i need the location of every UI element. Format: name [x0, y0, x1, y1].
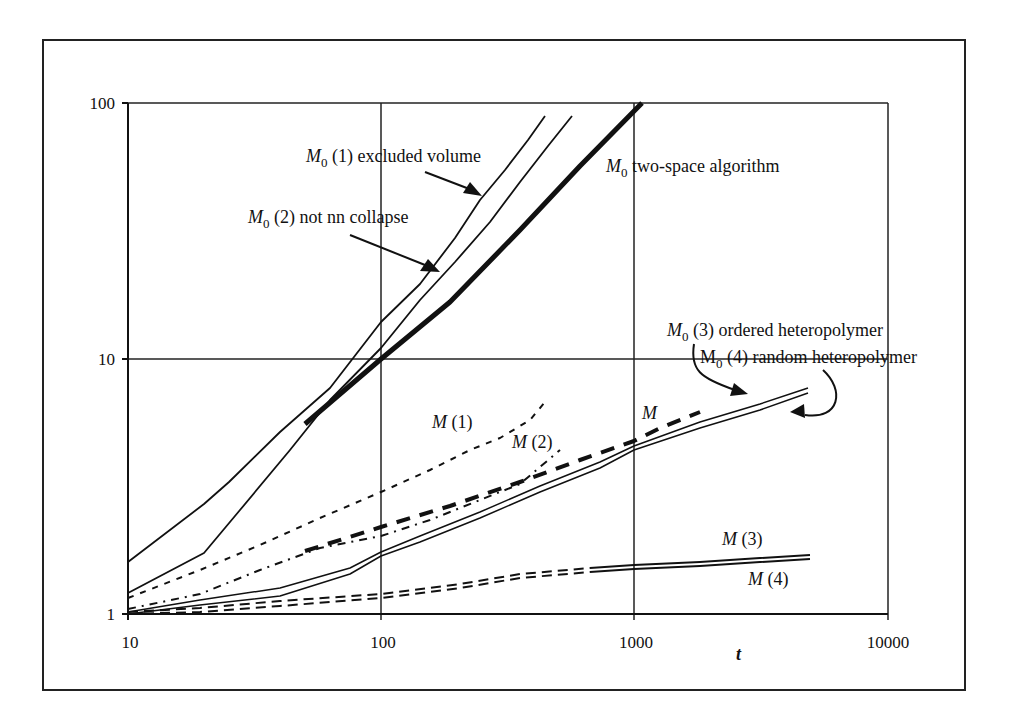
x-tick-10000: 10000 [867, 633, 910, 652]
arrowheads [420, 182, 805, 418]
series-m0-1-excluded-volume [128, 116, 545, 562]
annotation-m-4: M (4) [747, 569, 789, 590]
annotation-m-2: M (2) [511, 432, 553, 453]
y-tick-100: 100 [90, 94, 116, 113]
annotation-arrows [350, 172, 836, 416]
annotation-m0-4: M0 (4) random heteropolymer [700, 347, 917, 371]
series-m-2 [128, 450, 560, 609]
x-tick-100: 100 [370, 633, 396, 652]
y-tick-1: 1 [107, 605, 116, 624]
chart: 1 10 100 10 100 1000 10000 t [0, 0, 1009, 725]
x-tick-10: 10 [122, 633, 139, 652]
series-m0-2-not-nn-collapse [128, 116, 572, 593]
x-tick-labels: 10 100 1000 10000 [122, 633, 910, 652]
annotation-m: M [641, 403, 658, 423]
annotation-m-1: M (1) [431, 412, 473, 433]
y-tick-10: 10 [98, 350, 115, 369]
x-tick-1000: 1000 [619, 633, 653, 652]
annotation-m0-2: M0 (2) not nn collapse [247, 207, 408, 231]
series-m [305, 412, 700, 551]
series-m-1 [128, 402, 545, 598]
annotation-m0-1: M0 (1) excluded volume [305, 146, 481, 170]
y-tick-labels: 1 10 100 [90, 94, 116, 624]
x-axis-label: t [736, 644, 742, 664]
annotation-m0-3: M0 (3) ordered heteropolymer [666, 320, 883, 344]
annotation-m-3: M (3) [721, 529, 763, 550]
annotation-m0-two-space: M0 two-space algorithm [605, 156, 779, 180]
